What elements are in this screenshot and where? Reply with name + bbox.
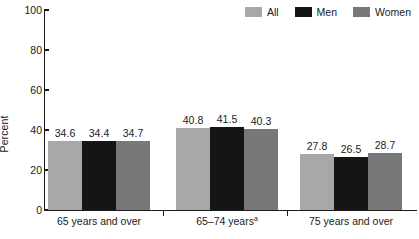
y-tick-label-100: 100	[24, 5, 42, 16]
y-tick-80	[44, 49, 49, 50]
y-axis-title: Percent	[0, 116, 10, 153]
bar-value-men-group-1: 34.4	[89, 128, 109, 139]
bar-value-all-group-3: 27.8	[307, 141, 327, 152]
bar-value-women-group-2: 40.3	[251, 116, 271, 127]
y-tick-label-0: 0	[36, 205, 42, 216]
y-tick-label-40: 40	[30, 125, 42, 136]
x-axis-line	[44, 210, 417, 211]
category-footnote-marker-2: a	[254, 215, 258, 222]
bar-value-women-group-1: 34.7	[123, 128, 143, 139]
bar-women-group-2	[244, 129, 278, 210]
y-tick-60	[44, 89, 49, 90]
bar-value-women-group-3: 28.7	[375, 140, 395, 151]
category-label-3: 75 years and over	[309, 216, 393, 227]
plot-area: Percent 020406080100 34.634.434.740.841.…	[0, 0, 419, 239]
bar-all-group-1	[48, 141, 82, 210]
y-tick-100	[44, 9, 49, 10]
bar-women-group-1	[116, 141, 150, 210]
bar-value-all-group-2: 40.8	[183, 115, 203, 126]
bar-men-group-2	[210, 127, 244, 210]
y-tick-label-80: 80	[30, 45, 42, 56]
bar-value-all-group-1: 34.6	[55, 128, 75, 139]
y-tick-label-20: 20	[30, 165, 42, 176]
y-tick-label-60: 60	[30, 85, 42, 96]
y-tick-40	[44, 129, 49, 130]
bar-all-group-2	[176, 128, 210, 210]
bar-men-group-3	[334, 157, 368, 210]
bar-value-men-group-2: 41.5	[217, 114, 237, 125]
group-separator-2	[287, 211, 288, 216]
y-axis-line	[44, 10, 45, 211]
group-separator-1	[163, 211, 164, 216]
bar-value-men-group-3: 26.5	[341, 144, 361, 155]
bar-women-group-3	[368, 153, 402, 210]
bar-chart: All Men Women Percent 020406080100 34.63…	[0, 0, 419, 239]
category-label-2: 65–74 yearsa	[196, 216, 258, 227]
bar-all-group-3	[300, 154, 334, 210]
category-label-1: 65 years and over	[57, 216, 141, 227]
bar-men-group-1	[82, 141, 116, 210]
